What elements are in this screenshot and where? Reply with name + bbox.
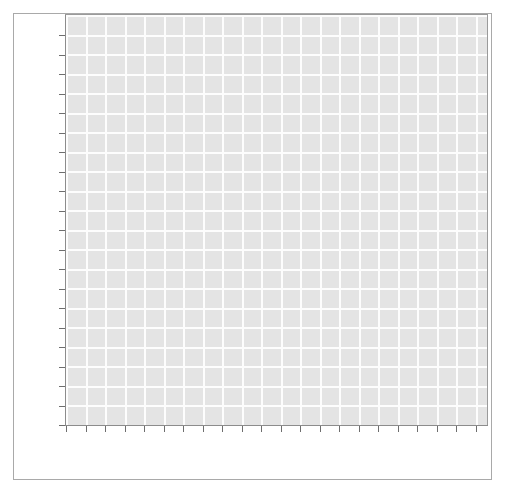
gridline-vertical: [378, 15, 380, 425]
gridline-vertical: [242, 15, 244, 425]
x-tick-mark: [437, 426, 438, 432]
y-tick-mark: [59, 328, 65, 329]
y-tick-mark: [59, 94, 65, 95]
gridline-horizontal: [66, 191, 487, 193]
y-tick-mark: [59, 172, 65, 173]
axis-spine-top: [65, 14, 488, 15]
gridline-horizontal: [66, 347, 487, 349]
gridline-vertical: [359, 15, 361, 425]
x-tick-mark: [261, 426, 262, 432]
gridline-vertical: [125, 15, 127, 425]
gridlines: [66, 15, 487, 425]
y-tick-mark: [59, 386, 65, 387]
y-tick-mark: [59, 211, 65, 212]
x-tick-mark: [476, 426, 477, 432]
x-tick-mark: [398, 426, 399, 432]
x-tick-mark: [378, 426, 379, 432]
gridline-horizontal: [66, 386, 487, 388]
gridline-horizontal: [66, 54, 487, 56]
plot-area[interactable]: [66, 15, 487, 425]
gridline-horizontal: [66, 230, 487, 232]
y-tick-mark: [59, 35, 65, 36]
axis-spine-left: [65, 15, 66, 426]
y-tick-mark: [59, 406, 65, 407]
y-tick-mark: [59, 425, 65, 426]
x-tick-mark: [164, 426, 165, 432]
gridline-vertical: [320, 15, 322, 425]
y-tick-mark: [59, 250, 65, 251]
gridline-vertical: [203, 15, 205, 425]
y-tick-mark: [59, 269, 65, 270]
y-tick-mark: [59, 55, 65, 56]
gridline-vertical: [183, 15, 185, 425]
gridline-horizontal: [66, 15, 487, 17]
x-tick-mark: [183, 426, 184, 432]
gridline-vertical: [66, 15, 68, 425]
x-tick-mark: [86, 426, 87, 432]
y-tick-mark: [59, 191, 65, 192]
gridline-horizontal: [66, 74, 487, 76]
gridline-horizontal: [66, 308, 487, 310]
y-tick-mark: [59, 289, 65, 290]
x-tick-mark: [125, 426, 126, 432]
x-tick-mark: [417, 426, 418, 432]
y-tick-mark: [59, 230, 65, 231]
gridline-horizontal: [66, 152, 487, 154]
y-tick-mark: [59, 74, 65, 75]
x-tick-mark: [203, 426, 204, 432]
axis-spine-bottom: [65, 425, 488, 426]
x-tick-mark: [320, 426, 321, 432]
gridline-horizontal: [66, 113, 487, 115]
gridline-vertical: [476, 15, 478, 425]
x-tick-mark: [339, 426, 340, 432]
gridline-horizontal: [66, 249, 487, 251]
gridline-vertical: [281, 15, 283, 425]
gridline-vertical: [144, 15, 146, 425]
gridline-vertical: [437, 15, 439, 425]
gridline-horizontal: [66, 35, 487, 37]
gridline-vertical: [86, 15, 88, 425]
gridline-horizontal: [66, 366, 487, 368]
gridline-horizontal: [66, 132, 487, 134]
x-tick-mark: [105, 426, 106, 432]
y-tick-mark: [59, 367, 65, 368]
gridline-vertical: [398, 15, 400, 425]
y-tick-mark: [59, 152, 65, 153]
gridline-horizontal: [66, 93, 487, 95]
y-tick-mark: [59, 347, 65, 348]
gridline-vertical: [456, 15, 458, 425]
gridline-vertical: [417, 15, 419, 425]
chart-figure: [0, 0, 507, 495]
y-tick-mark: [59, 308, 65, 309]
gridline-vertical: [222, 15, 224, 425]
gridline-horizontal: [66, 405, 487, 407]
gridline-vertical: [261, 15, 263, 425]
x-tick-mark: [300, 426, 301, 432]
y-tick-mark: [59, 133, 65, 134]
gridline-horizontal: [66, 327, 487, 329]
x-tick-mark: [359, 426, 360, 432]
x-tick-mark: [456, 426, 457, 432]
x-tick-mark: [222, 426, 223, 432]
x-tick-mark: [281, 426, 282, 432]
gridline-vertical: [164, 15, 166, 425]
x-tick-mark: [242, 426, 243, 432]
gridline-vertical: [339, 15, 341, 425]
gridline-horizontal: [66, 269, 487, 271]
gridline-horizontal: [66, 210, 487, 212]
gridline-vertical: [300, 15, 302, 425]
gridline-horizontal: [66, 288, 487, 290]
x-tick-mark: [144, 426, 145, 432]
y-tick-mark: [59, 113, 65, 114]
axis-spine-right: [487, 15, 488, 426]
x-tick-mark: [66, 426, 67, 432]
gridline-horizontal: [66, 171, 487, 173]
gridline-vertical: [105, 15, 107, 425]
